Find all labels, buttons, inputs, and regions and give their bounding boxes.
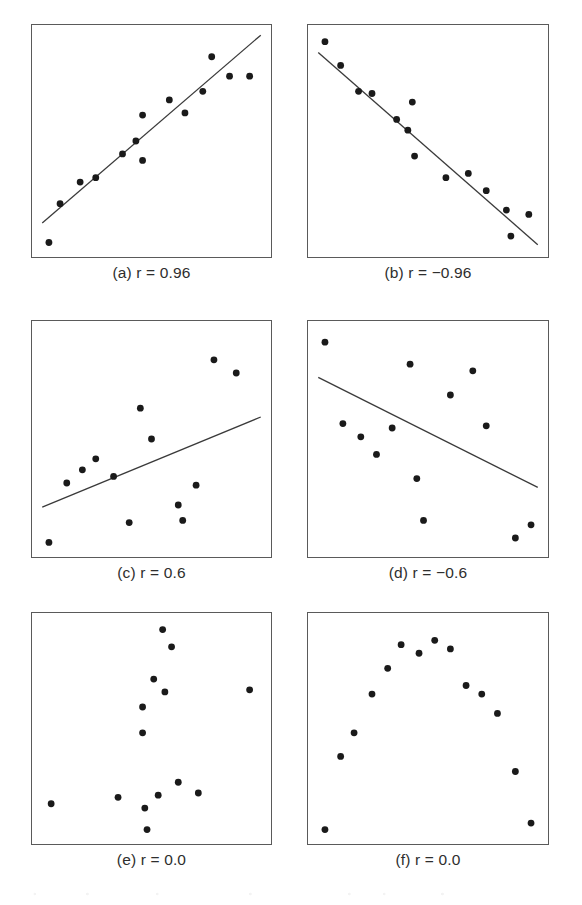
regression-line-a <box>42 35 261 223</box>
data-point <box>469 367 476 374</box>
panel-plot-area-a <box>31 24 272 258</box>
correlation-scatterplot-figure: (a) r = 0.96(b) r = −0.96(c) r = 0.6(d) … <box>0 0 582 905</box>
data-point <box>447 646 454 653</box>
data-point <box>411 153 418 160</box>
data-point <box>63 480 70 487</box>
data-point <box>337 753 344 760</box>
data-point <box>407 361 414 368</box>
data-point <box>494 710 501 717</box>
data-point <box>246 73 253 80</box>
data-point <box>132 138 139 145</box>
data-point <box>175 779 182 786</box>
data-point <box>46 539 53 546</box>
data-point <box>182 110 189 117</box>
data-point <box>179 517 186 524</box>
regression-line-b <box>318 52 538 244</box>
panel-caption-b: (b) r = −0.96 <box>307 264 549 282</box>
data-point <box>525 211 532 218</box>
data-point <box>126 519 133 526</box>
data-point <box>512 768 519 775</box>
data-point <box>389 425 396 432</box>
data-point <box>226 73 233 80</box>
panel-caption-f: (f) r = 0.0 <box>307 851 549 869</box>
regression-line-d <box>318 377 538 487</box>
panel-plot-area-d <box>307 320 549 558</box>
data-point <box>211 356 218 363</box>
data-point <box>166 97 173 104</box>
data-point <box>208 53 215 60</box>
data-point <box>398 641 405 648</box>
data-point <box>159 626 166 633</box>
panel-plot-area-b <box>307 24 549 258</box>
data-point <box>139 157 146 164</box>
data-point <box>393 116 400 123</box>
panel-caption-a: (a) r = 0.96 <box>31 264 272 282</box>
data-point <box>512 535 519 542</box>
data-point <box>528 521 535 528</box>
data-point <box>483 187 490 194</box>
data-point <box>465 170 472 177</box>
scatter-panel-f <box>307 612 549 845</box>
data-point <box>369 691 376 698</box>
data-point <box>369 90 376 97</box>
panel-plot-area-f <box>307 612 549 845</box>
data-point <box>77 179 84 186</box>
data-point <box>447 392 454 399</box>
panel-caption-e: (e) r = 0.0 <box>31 851 272 869</box>
data-point <box>48 800 55 807</box>
data-point <box>161 689 168 696</box>
data-point <box>503 207 510 214</box>
data-point <box>115 794 122 801</box>
data-point <box>463 682 470 689</box>
data-point <box>355 88 362 95</box>
data-point <box>141 805 148 812</box>
data-point <box>233 370 240 377</box>
data-point <box>168 643 175 650</box>
data-point <box>92 455 99 462</box>
data-point <box>322 826 329 833</box>
panel-caption-d: (d) r = −0.6 <box>307 564 549 582</box>
data-point <box>137 405 144 412</box>
data-point <box>92 174 99 181</box>
scatter-panel-d <box>307 320 549 558</box>
scan-artifact-strip <box>0 888 582 900</box>
scatter-panel-c <box>31 320 272 558</box>
data-point <box>150 676 157 683</box>
data-point <box>351 729 358 736</box>
data-point <box>144 826 151 833</box>
data-point <box>416 650 423 657</box>
data-point <box>199 88 206 95</box>
data-point <box>193 482 200 489</box>
data-point <box>322 339 329 346</box>
data-point <box>339 420 346 427</box>
data-point <box>413 475 420 482</box>
data-point <box>409 99 416 106</box>
data-point <box>79 466 86 473</box>
data-point <box>483 422 490 429</box>
data-point <box>139 112 146 119</box>
data-point <box>431 637 438 644</box>
data-point <box>528 820 535 827</box>
data-point <box>373 451 380 458</box>
data-point <box>119 151 126 158</box>
data-point <box>384 665 391 672</box>
data-point <box>195 790 202 797</box>
data-point <box>246 686 253 693</box>
panel-plot-area-e <box>31 612 272 845</box>
scatter-panel-a <box>31 24 272 258</box>
data-point <box>148 436 155 443</box>
scatter-panel-b <box>307 24 549 258</box>
data-point <box>57 200 64 207</box>
data-point <box>139 729 146 736</box>
data-point <box>322 38 329 45</box>
data-point <box>507 233 514 240</box>
scatter-panel-e <box>31 612 272 845</box>
data-point <box>175 502 182 509</box>
data-point <box>139 704 146 711</box>
data-point <box>110 473 117 480</box>
data-point <box>443 174 450 181</box>
data-point <box>337 62 344 69</box>
regression-line-c <box>42 417 261 507</box>
panel-caption-c: (c) r = 0.6 <box>31 564 272 582</box>
data-point <box>404 127 411 134</box>
